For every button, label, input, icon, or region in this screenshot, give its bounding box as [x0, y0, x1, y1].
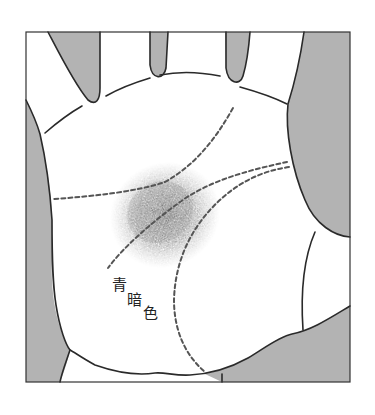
annotation-char-2: 暗 [127, 293, 142, 308]
palm-diagram [0, 0, 375, 415]
annotation-char-1: 青 [112, 278, 127, 293]
annotation-char-3: 色 [143, 306, 158, 321]
